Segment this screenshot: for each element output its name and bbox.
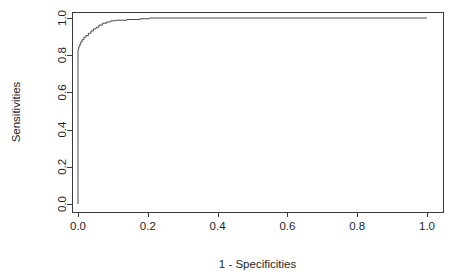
y-tick-label: 0.2 — [56, 159, 68, 175]
roc-figure: 0.00.20.40.60.81.00.00.20.40.60.81.01 - … — [0, 0, 451, 278]
x-tick-label: 0.2 — [140, 220, 156, 232]
y-tick-label: 0.4 — [56, 121, 68, 138]
y-tick-label: 0.8 — [56, 47, 68, 63]
y-tick-label: 0.6 — [56, 84, 68, 100]
x-tick-label: 0.6 — [279, 220, 295, 232]
x-tick-label: 0.8 — [349, 220, 365, 232]
plot-box-border — [73, 13, 444, 213]
y-tick-label: 1.0 — [56, 10, 68, 26]
y-axis-title: Sensitivities — [10, 81, 22, 142]
x-tick-label: 0.0 — [70, 220, 86, 232]
roc-plot-svg: 0.00.20.40.60.81.00.00.20.40.60.81.01 - … — [0, 0, 451, 278]
x-tick-label: 0.4 — [210, 220, 227, 232]
roc-curve — [78, 18, 427, 204]
x-tick-label: 1.0 — [419, 220, 435, 232]
clipped-top-text — [240, 0, 440, 5]
x-axis-title: 1 - Specificities — [219, 258, 297, 270]
y-tick-label: 0.0 — [56, 196, 68, 212]
